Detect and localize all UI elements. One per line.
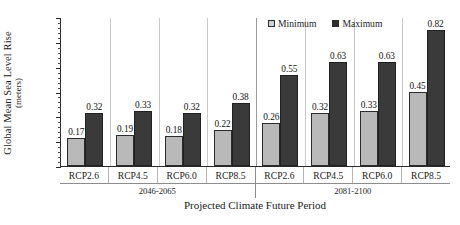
x-category-RCP2.6-1[interactable]: RCP2.6 xyxy=(256,167,305,183)
y-axis-title-units: (meters) xyxy=(14,78,23,108)
bar-minimum-RCP4.5-1[interactable] xyxy=(311,113,329,166)
x-period-2046-2065: 2046-2065 xyxy=(60,184,256,198)
legend-label-minimum: Minimum xyxy=(278,18,316,29)
x-category-RCP8.5-1[interactable]: RCP8.5 xyxy=(402,167,450,183)
bar-maximum-RCP6.0-1[interactable] xyxy=(378,62,396,166)
bars-layer: 0.170.320.190.330.180.320.220.380.260.55… xyxy=(61,18,450,166)
bar-value-label: 0.55 xyxy=(275,65,303,74)
bar-minimum-RCP8.5-0[interactable] xyxy=(214,130,232,166)
bar-minimum-RCP8.5-1[interactable] xyxy=(409,92,427,167)
x-category-RCP4.5-1[interactable]: RCP4.5 xyxy=(304,167,353,183)
maximum-swatch-icon xyxy=(332,20,339,27)
x-category-RCP6.0-1[interactable]: RCP6.0 xyxy=(353,167,402,183)
bar-maximum-RCP8.5-0[interactable] xyxy=(232,103,250,166)
bar-minimum-RCP6.0-1[interactable] xyxy=(360,111,378,166)
bar-maximum-RCP2.6-0[interactable] xyxy=(85,113,103,166)
bar-value-label: 0.38 xyxy=(227,93,255,102)
x-period-2081-2100: 2081-2100 xyxy=(256,184,451,198)
minimum-swatch-icon xyxy=(268,20,275,27)
legend-label-maximum: Maximum xyxy=(342,18,382,29)
bar-minimum-RCP6.0-0[interactable] xyxy=(165,136,183,166)
legend-item-minimum[interactable]: Minimum xyxy=(268,18,316,29)
bar-value-label: 0.63 xyxy=(324,52,352,61)
bar-minimum-RCP4.5-0[interactable] xyxy=(116,135,134,166)
bar-maximum-RCP4.5-1[interactable] xyxy=(329,62,347,166)
bar-value-label: 0.32 xyxy=(178,103,206,112)
x-axis-period-labels: 2046-20652081-2100 xyxy=(60,184,450,198)
x-category-RCP4.5-0[interactable]: RCP4.5 xyxy=(109,167,158,183)
x-category-RCP2.6-0[interactable]: RCP2.6 xyxy=(60,167,109,183)
x-category-RCP8.5-0[interactable]: RCP8.5 xyxy=(207,167,256,183)
x-axis-title: Projected Climate Future Period xyxy=(60,199,450,211)
legend-item-maximum[interactable]: Maximum xyxy=(332,18,382,29)
bar-maximum-RCP4.5-0[interactable] xyxy=(134,111,152,166)
bar-chart: (meters) Global Mean Sea Level Rise 0.00… xyxy=(0,0,460,225)
chart-legend: Minimum Maximum xyxy=(268,18,382,29)
x-category-RCP6.0-0[interactable]: RCP6.0 xyxy=(158,167,207,183)
plot-area: 0.000.150.300.450.600.750.90 0.170.320.1… xyxy=(60,18,450,167)
bar-value-label: 0.33 xyxy=(129,101,157,110)
bar-maximum-RCP6.0-0[interactable] xyxy=(183,113,201,166)
bar-value-label: 0.82 xyxy=(422,20,450,29)
bar-maximum-RCP8.5-1[interactable] xyxy=(427,30,445,166)
bar-maximum-RCP2.6-1[interactable] xyxy=(280,75,298,166)
bar-minimum-RCP2.6-0[interactable] xyxy=(67,138,85,166)
bar-value-label: 0.63 xyxy=(373,52,401,61)
y-axis-title: (meters) Global Mean Sea Level Rise xyxy=(0,18,26,168)
bar-value-label: 0.32 xyxy=(80,103,108,112)
bar-minimum-RCP2.6-1[interactable] xyxy=(262,123,280,166)
x-axis-category-labels: RCP2.6RCP4.5RCP6.0RCP8.5RCP2.6RCP4.5RCP6… xyxy=(60,167,450,184)
